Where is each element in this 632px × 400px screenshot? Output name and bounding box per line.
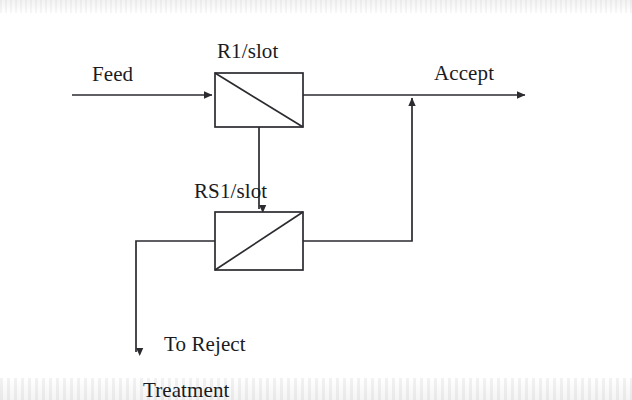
label-reject-line2: Treatment — [143, 379, 246, 400]
diagram-canvas: Feed Accept R1/slot RS1/slot To Reject T… — [0, 0, 632, 400]
label-feed: Feed — [92, 63, 133, 86]
flow-diagram-svg — [0, 0, 632, 400]
edge-rs1-to-accept — [303, 98, 412, 241]
label-accept: Accept — [434, 62, 494, 85]
label-reject-treatment: To Reject Treatment — [143, 310, 246, 400]
label-reject-line1: To Reject — [164, 332, 246, 356]
label-rs1-slot: RS1/slot — [194, 180, 267, 203]
label-r1-slot: R1/slot — [217, 40, 278, 63]
